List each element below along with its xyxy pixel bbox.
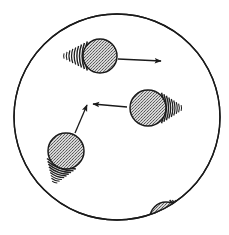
particle-diagram [0,0,229,235]
outer-boundary-stroke [14,14,220,220]
particle-2 [130,90,182,126]
direction-arrow-icon [93,104,127,107]
particle-3 [47,133,84,183]
particle-body [48,133,84,169]
particle-body [150,202,182,234]
particle-1 [64,39,117,73]
direction-arrow-icon [118,59,161,61]
direction-arrow-icon [75,105,87,133]
particle-4 [150,200,193,234]
outer-boundary-circle [14,14,220,220]
diagram-canvas: Particles moving inside a circular field… [0,0,229,235]
particle-body [83,39,117,73]
particle-body [130,90,166,126]
